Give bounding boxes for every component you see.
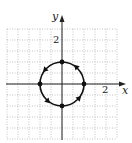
y-tick-label-2: 2 [53,34,59,45]
point-0-2 [60,60,65,65]
x-axis-label: x [122,84,128,97]
point-0-neg2 [60,104,65,109]
point-2-0 [82,82,87,87]
plot-area [0,0,132,143]
y-axis-arrow-icon [60,15,65,22]
y-axis [60,15,65,140]
y-axis-label: y [52,10,58,23]
point-neg2-0 [38,82,43,87]
x-tick-label-2: 2 [102,84,108,95]
